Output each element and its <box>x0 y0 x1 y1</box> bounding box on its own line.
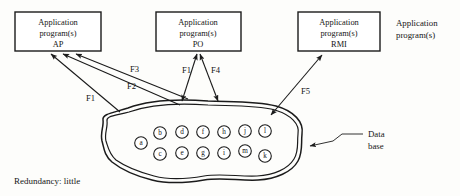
database-node-l[interactable]: l <box>259 125 272 138</box>
program-box-rmi-line2: program(s) <box>320 29 357 38</box>
database-node-b[interactable]: b <box>154 127 167 140</box>
database-node-d[interactable]: d <box>176 126 189 139</box>
program-box-po-line1: Application <box>178 18 218 27</box>
database-node-c-letter: c <box>158 150 161 158</box>
database-node-k[interactable]: k <box>259 150 272 163</box>
database-node-h-letter: h <box>222 128 226 136</box>
database-node-a[interactable]: a <box>135 137 148 150</box>
database-node-j-letter: j <box>243 127 246 135</box>
database-node-b-letter: b <box>158 129 162 137</box>
database-node-m-letter: m <box>242 147 248 155</box>
program-box-rmi[interactable]: Application program(s) RMI <box>298 12 380 51</box>
database-node-d-letter: d <box>180 128 184 136</box>
program-box-rmi-name: RMI <box>331 40 347 49</box>
side-annotation-line1: Application <box>396 18 438 28</box>
flow-label-f4: F4 <box>211 65 221 75</box>
database-node-k-letter: k <box>263 152 267 160</box>
database-callout: Data base <box>310 129 385 151</box>
program-box-rmi-line1: Application <box>319 18 359 27</box>
database-node-j[interactable]: j <box>239 125 252 138</box>
flow-arrow-f1-po[interactable] <box>182 54 197 101</box>
flow-arrow-f4[interactable] <box>200 54 218 101</box>
database-node-m[interactable]: m <box>239 145 252 158</box>
database-node-h[interactable]: h <box>218 126 231 139</box>
flow-label-f1-ap: F1 <box>86 93 95 103</box>
flow-label-f2: F2 <box>127 81 136 91</box>
database-callout-leader <box>310 134 363 146</box>
program-box-po[interactable]: Application program(s) PO <box>156 12 241 51</box>
database-blob[interactable] <box>101 100 302 183</box>
database-callout-line1: Data <box>368 129 385 139</box>
flow-arrow-f1-ap[interactable] <box>51 54 120 112</box>
redundancy-note: Redundancy: little <box>14 176 80 186</box>
database-node-g-letter: g <box>201 149 205 157</box>
program-box-ap-line1: Application <box>38 18 78 27</box>
database-node-e-letter: e <box>180 149 183 157</box>
flow-label-f3: F3 <box>130 64 139 74</box>
database-callout-line2: base <box>368 141 384 151</box>
side-annotation-line2: program(s) <box>396 30 435 40</box>
flow-label-f5: F5 <box>301 86 310 96</box>
database-node-g[interactable]: g <box>197 147 210 160</box>
diagram-canvas: Application program(s) AP Application pr… <box>0 0 460 196</box>
database-node-i-letter: i <box>223 149 225 157</box>
program-box-po-line2: program(s) <box>179 29 216 38</box>
database-node-c[interactable]: c <box>154 148 167 161</box>
program-box-ap-name: AP <box>53 40 64 49</box>
program-box-ap[interactable]: Application program(s) AP <box>15 12 101 51</box>
program-box-ap-line2: program(s) <box>39 29 76 38</box>
database-node-f[interactable]: f <box>197 126 210 139</box>
flow-arrow-f5[interactable] <box>271 55 322 115</box>
database-node-l-letter: l <box>264 127 266 135</box>
database-node-group: a b c d e f g <box>135 125 272 163</box>
database-node-i[interactable]: i <box>218 147 231 160</box>
program-box-po-name: PO <box>193 40 204 49</box>
diagram-svg: Application program(s) AP Application pr… <box>0 0 460 196</box>
flow-label-f1-po: F1 <box>182 65 191 75</box>
database-node-e[interactable]: e <box>176 147 189 160</box>
